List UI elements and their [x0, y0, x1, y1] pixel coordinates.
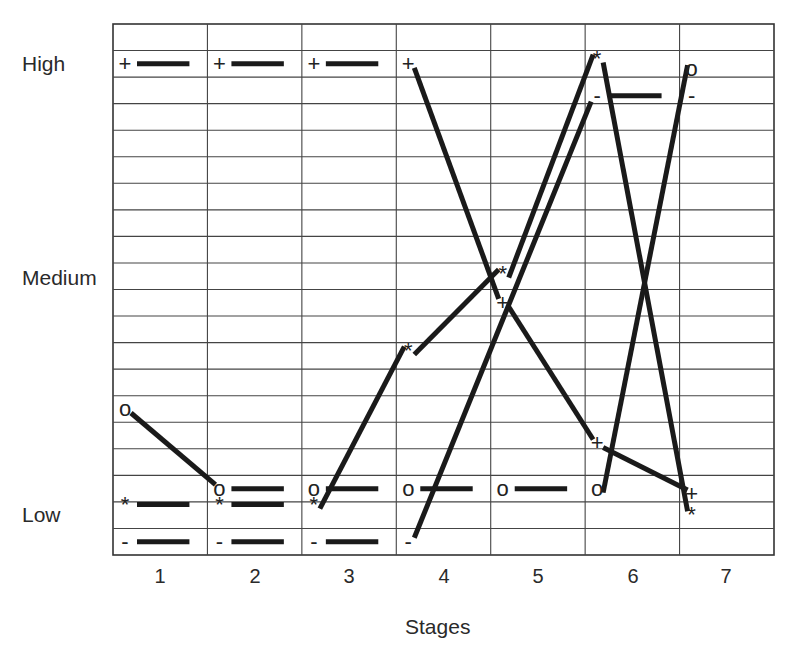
y-label-high: High: [22, 52, 65, 76]
x-axis-title: Stages: [405, 615, 470, 639]
svg-text:-: -: [216, 529, 223, 554]
stage-level-chart: +++++++ooooooo*******------: [0, 0, 796, 664]
svg-text:-: -: [688, 83, 695, 108]
x-tick-1: 1: [140, 565, 180, 588]
x-tick-5: 5: [518, 565, 558, 588]
svg-text:*: *: [498, 261, 507, 286]
svg-text:o: o: [497, 476, 509, 501]
svg-text:+: +: [496, 290, 509, 315]
svg-text:o: o: [591, 476, 603, 501]
svg-text:*: *: [404, 338, 413, 363]
chart-grid: [113, 24, 774, 555]
svg-text:+: +: [402, 51, 415, 76]
svg-text:-: -: [310, 529, 317, 554]
svg-text:o: o: [119, 396, 131, 421]
y-label-low: Low: [22, 503, 61, 527]
svg-text:o: o: [685, 56, 697, 81]
svg-text:*: *: [310, 492, 319, 517]
svg-text:*: *: [121, 492, 130, 517]
svg-text:-: -: [121, 529, 128, 554]
svg-text:+: +: [119, 51, 132, 76]
x-tick-4: 4: [424, 565, 464, 588]
svg-text:o: o: [402, 476, 414, 501]
svg-text:-: -: [593, 83, 600, 108]
svg-text:+: +: [591, 430, 604, 455]
svg-text:-: -: [405, 529, 412, 554]
svg-text:*: *: [687, 502, 696, 527]
y-label-medium: Medium: [22, 266, 97, 290]
svg-text:*: *: [593, 46, 602, 71]
x-tick-3: 3: [329, 565, 369, 588]
svg-text:+: +: [307, 51, 320, 76]
x-tick-2: 2: [235, 565, 275, 588]
svg-text:*: *: [215, 492, 224, 517]
x-tick-6: 6: [613, 565, 653, 588]
svg-text:+: +: [213, 51, 226, 76]
x-tick-7: 7: [706, 565, 746, 588]
series-lines: [131, 55, 688, 542]
